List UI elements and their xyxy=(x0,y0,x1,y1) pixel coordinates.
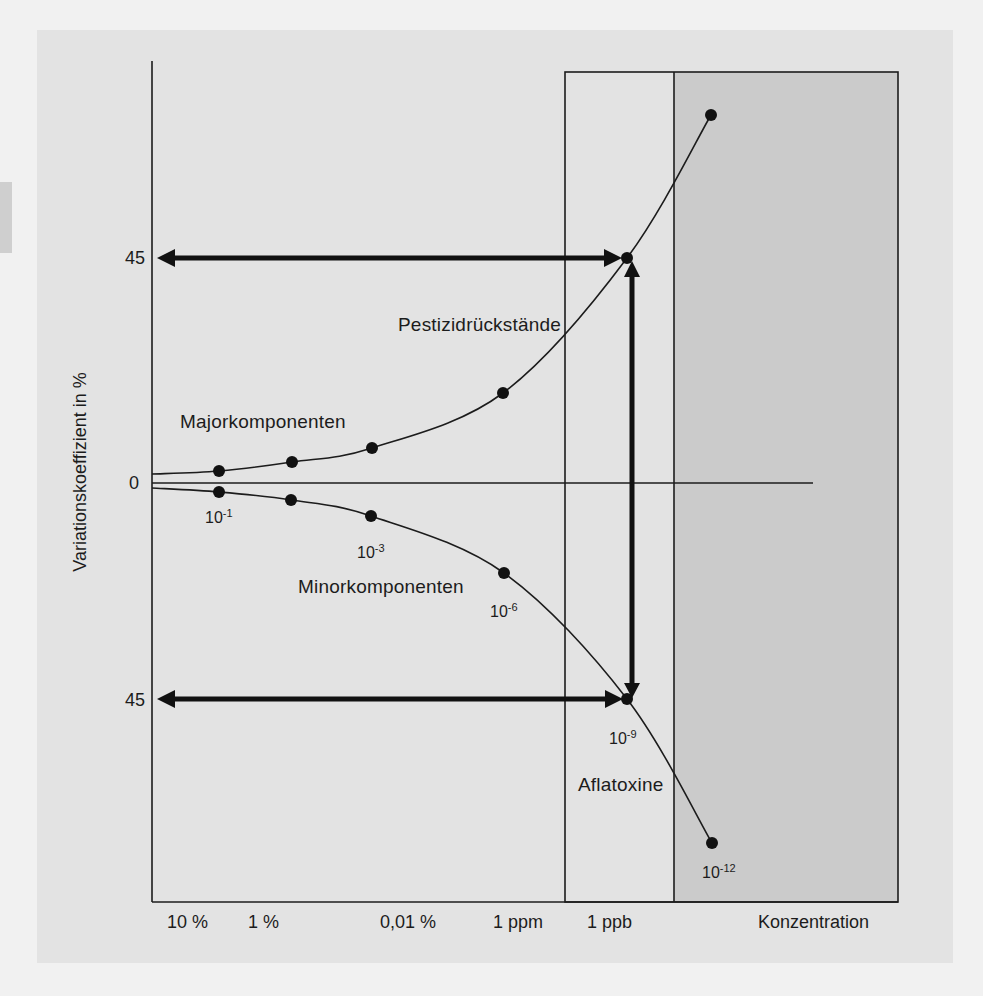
label-pestizidrueckstaende: Pestizidrückstände xyxy=(398,314,561,336)
data-point-dot xyxy=(365,510,377,522)
data-point-dot xyxy=(213,486,225,498)
label-minorkomponenten: Minorkomponenten xyxy=(298,576,464,598)
trumpet-chart xyxy=(0,0,983,996)
x-tick-1-ppb: 1 ppb xyxy=(587,911,632,933)
data-point-dot xyxy=(286,456,298,468)
point-label-1e-1: 10-1 xyxy=(205,509,233,527)
data-point-dot xyxy=(497,387,509,399)
data-points xyxy=(213,109,718,849)
data-point-dot xyxy=(213,465,225,477)
label-majorkomponenten: Majorkomponenten xyxy=(180,411,346,433)
lower-45-arrow xyxy=(157,690,623,708)
data-point-dot xyxy=(621,252,633,264)
y-tick-45-lower: 45 xyxy=(105,689,145,711)
point-label-1e-6: 10-6 xyxy=(490,603,518,621)
x-tick-10-percent: 10 % xyxy=(167,911,208,933)
x-axis-title: Konzentration xyxy=(758,911,869,933)
shaded-region xyxy=(674,72,898,902)
x-tick-0-01-percent: 0,01 % xyxy=(380,911,436,933)
x-tick-1-percent: 1 % xyxy=(248,911,279,933)
data-point-dot xyxy=(285,494,297,506)
point-label-1e-9: 10-9 xyxy=(609,730,637,748)
point-label-1e-12: 10-12 xyxy=(702,864,736,882)
x-tick-1-ppm: 1 ppm xyxy=(493,911,543,933)
vertical-span-arrow xyxy=(624,261,640,698)
data-point-dot xyxy=(706,837,718,849)
y-axis-label: Variationskoeffizient in % xyxy=(70,372,91,571)
label-aflatoxine: Aflatoxine xyxy=(578,774,663,796)
point-label-1e-3: 10-3 xyxy=(357,544,385,562)
data-point-dot xyxy=(366,442,378,454)
y-tick-0: 0 xyxy=(99,472,139,494)
upper-45-arrow xyxy=(157,249,622,267)
data-point-dot xyxy=(498,567,510,579)
y-tick-45-upper: 45 xyxy=(105,247,145,269)
data-point-dot xyxy=(705,109,717,121)
